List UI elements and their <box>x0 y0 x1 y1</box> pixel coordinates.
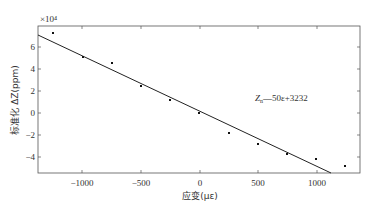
data-point <box>82 56 84 58</box>
x-tick-label: 500 <box>251 178 265 188</box>
data-point <box>286 153 288 155</box>
x-axis-label: 应变(με) <box>182 190 218 201</box>
data-point <box>257 143 259 145</box>
data-point <box>52 32 54 34</box>
x-tick-label: 1000 <box>308 178 327 188</box>
y-ticks <box>38 47 360 157</box>
data-point <box>169 99 171 101</box>
data-point <box>198 112 200 114</box>
x-tick-label: −1000 <box>70 178 94 188</box>
y-tick-label: −4 <box>25 152 35 162</box>
y-axis-label: 标准化 ΔZ(ppm) <box>9 65 20 134</box>
chart: −1000 −500 0 500 1000 6 4 2 0 −2 −4 ×10⁴… <box>0 0 372 212</box>
x-tick-label: −500 <box>132 178 151 188</box>
data-point <box>315 158 317 160</box>
data-point <box>140 85 142 87</box>
y-tick-label: 4 <box>31 64 36 74</box>
y-multiplier: ×10⁴ <box>40 14 57 24</box>
fit-equation: Zn—50ε+3232 <box>255 93 308 104</box>
data-point <box>111 62 113 64</box>
data-point <box>228 132 230 134</box>
y-tick-label: 2 <box>31 86 36 96</box>
y-tick-label: 0 <box>31 108 36 118</box>
x-tick-label: 0 <box>198 178 203 188</box>
y-tick-label: −2 <box>25 130 35 140</box>
axes-frame <box>38 26 360 173</box>
data-point <box>344 165 346 167</box>
fit-line <box>38 35 331 173</box>
y-tick-label: 6 <box>31 42 36 52</box>
